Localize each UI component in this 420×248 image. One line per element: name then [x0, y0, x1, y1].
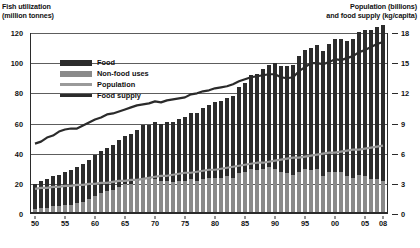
axis-left-line — [30, 33, 31, 214]
x-axis-tick-label: 70 — [151, 219, 159, 228]
x-axis-tick — [125, 216, 126, 219]
y-axis-right-tick-label: 15 — [401, 59, 409, 68]
y-axis-left-tick-label: 80 — [15, 89, 23, 98]
x-axis-tick-label: 95 — [301, 219, 309, 228]
y-axis-left-labels: 020406080100120 — [0, 33, 26, 214]
x-axis-tick-label: 00 — [331, 219, 339, 228]
axis-right-line — [387, 33, 388, 214]
x-axis-tick-label: 65 — [121, 219, 129, 228]
right-axis-title-line1: Population (billions) — [326, 2, 417, 11]
fish-utilization-chart: Fish utilization (million tonnes) Popula… — [0, 0, 420, 248]
y-axis-left-tick-label: 40 — [15, 149, 23, 158]
left-axis-title-line2: (million tonnes) — [2, 11, 54, 20]
y-axis-left-tick-label: 100 — [11, 59, 23, 68]
population-line — [35, 146, 383, 189]
y-axis-right-tick — [392, 154, 398, 155]
y-axis-right-tick-label: 0 — [401, 210, 405, 219]
y-axis-right-tick-label: 18 — [401, 29, 409, 38]
y-axis-right-tick — [392, 214, 398, 215]
y-axis-left-tick-label: 0 — [19, 210, 23, 219]
y-axis-right-tick — [392, 93, 398, 94]
y-axis-left-tick-label: 60 — [15, 119, 23, 128]
legend-label: Food supply — [97, 91, 141, 100]
legend-swatch-supply-icon — [60, 94, 92, 97]
legend-item-population: Population — [60, 79, 149, 90]
legend-label: Food — [97, 58, 115, 67]
y-axis-right-tick — [392, 124, 398, 125]
x-axis-tick — [305, 216, 306, 219]
y-axis-right-tick-label: 9 — [401, 119, 405, 128]
y-axis-right-tick — [392, 63, 398, 64]
x-axis-tick-label: 75 — [181, 219, 189, 228]
legend-label: Population — [97, 80, 135, 89]
x-axis-tick-label: 05 — [361, 219, 369, 228]
x-axis-labels: 50556065707580859095000508 — [30, 216, 388, 232]
x-axis-tick-label: 08 — [379, 219, 387, 228]
x-axis-tick-label: 50 — [31, 219, 39, 228]
x-axis-tick — [275, 216, 276, 219]
x-axis-tick-label: 90 — [271, 219, 279, 228]
left-axis-title: Fish utilization (million tonnes) — [2, 2, 54, 20]
x-axis-tick — [383, 216, 384, 219]
x-axis-tick — [245, 216, 246, 219]
x-axis-tick — [155, 216, 156, 219]
y-axis-right-tick — [392, 33, 398, 34]
legend-item-supply: Food supply — [60, 90, 149, 101]
x-axis-tick-label: 55 — [61, 219, 69, 228]
y-axis-right-tick-label: 6 — [401, 149, 405, 158]
y-axis-right-labels: 0369121518 — [392, 33, 418, 214]
right-axis-title-line2: and food supply (kg/capita) — [326, 11, 417, 20]
x-axis-tick — [215, 216, 216, 219]
x-axis-tick-label: 85 — [241, 219, 249, 228]
x-axis-tick — [95, 216, 96, 219]
y-axis-left-tick-label: 20 — [15, 179, 23, 188]
legend-swatch-nonfood-icon — [60, 71, 92, 77]
x-axis-tick — [35, 216, 36, 219]
legend-swatch-food-icon — [60, 60, 92, 66]
y-axis-right-tick — [392, 184, 398, 185]
y-axis-right-tick-label: 3 — [401, 179, 405, 188]
y-axis-right-tick-label: 12 — [401, 89, 409, 98]
right-axis-title: Population (billions) and food supply (k… — [326, 2, 417, 20]
legend-label: Non-food uses — [97, 69, 149, 78]
left-axis-title-line1: Fish utilization — [2, 2, 54, 11]
legend-item-food: Food — [60, 57, 149, 68]
legend-item-nonfood: Non-food uses — [60, 68, 149, 79]
x-axis-tick — [65, 216, 66, 219]
x-axis-tick — [335, 216, 336, 219]
x-axis-tick-label: 80 — [211, 219, 219, 228]
axis-bottom-line — [30, 212, 388, 214]
x-axis-tick — [185, 216, 186, 219]
legend-swatch-population-icon — [60, 83, 92, 85]
x-axis-tick-label: 60 — [91, 219, 99, 228]
chart-legend: FoodNon-food usesPopulationFood supply — [60, 57, 149, 101]
x-axis-tick — [365, 216, 366, 219]
y-axis-left-tick-label: 120 — [11, 29, 23, 38]
